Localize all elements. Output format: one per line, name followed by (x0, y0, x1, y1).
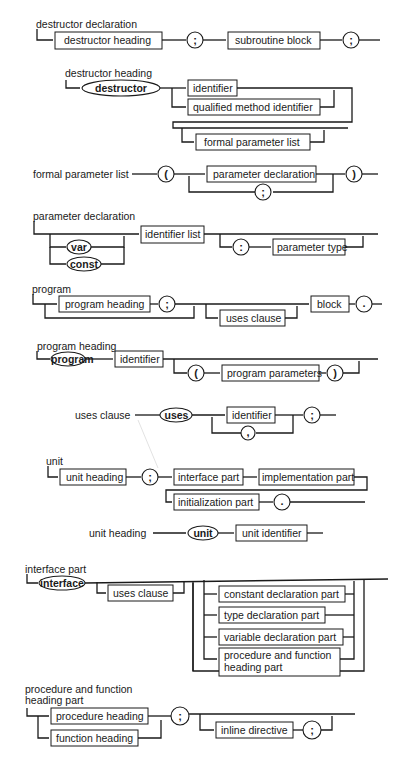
symbol-close-paren: ) (328, 367, 342, 379)
symbol-semicolon: ; (188, 34, 202, 46)
symbol-open-paren: ( (189, 367, 203, 379)
diagram-title-formal-parameter-list: formal parameter list (33, 168, 129, 180)
node-uses-clause: uses clause (113, 587, 168, 599)
symbol-semicolon: ; (305, 409, 319, 421)
diagram-title-program-heading: program heading (37, 340, 116, 352)
node-type-declaration-part: type declaration part (224, 609, 319, 621)
node-inline-directive: inline directive (221, 724, 288, 736)
diagram-title-parameter-declaration: parameter declaration (33, 210, 135, 222)
node-identifier: identifier (193, 82, 233, 94)
symbol-semicolon: ; (305, 724, 319, 736)
symbol-semicolon: ; (344, 34, 358, 46)
symbol-period: . (275, 495, 289, 507)
node-unit-identifier: unit identifier (242, 527, 302, 539)
node-formal-parameter-list: formal parameter list (204, 136, 300, 148)
symbol-colon: : (234, 241, 248, 253)
node-parameter-type: parameter type (277, 241, 348, 253)
node-identifier: identifier (232, 409, 272, 421)
symbol-semicolon: ; (160, 298, 174, 310)
keyword-unit: unit (188, 527, 218, 539)
node-function-heading: function heading (56, 732, 133, 744)
node-parameter-declaration: parameter declaration (213, 168, 315, 180)
node-interface-part: interface part (178, 471, 239, 483)
diagram-title-unit: unit (46, 455, 63, 467)
node-block: block (317, 298, 342, 310)
node-uses-clause: uses clause (226, 312, 281, 324)
keyword-uses: uses (161, 409, 192, 421)
node-constant-declaration-part: constant declaration part (224, 588, 339, 600)
keyword-destructor: destructor (82, 82, 160, 94)
diagram-title-procedure-function-heading-part-line2: heading part (25, 694, 83, 706)
node-implementation-part: implementation part (262, 471, 354, 483)
node-variable-declaration-part: variable declaration part (224, 631, 336, 643)
node-unit-heading: unit heading (66, 471, 123, 483)
symbol-semicolon: ; (173, 710, 187, 722)
keyword-interface: interface (39, 577, 85, 589)
symbol-close-paren: ) (347, 168, 361, 180)
node-identifier: identifier (120, 353, 160, 365)
node-identifier-list: identifier list (145, 228, 200, 240)
diagram-title-destructor-heading: destructor heading (65, 67, 152, 79)
diagram-title-uses-clause: uses clause (75, 409, 130, 421)
node-subroutine-block: subroutine block (235, 34, 311, 46)
keyword-program: program (51, 353, 85, 365)
node-procedure-and-function-heading-part-line1: procedure and function (224, 649, 331, 661)
node-procedure-and-function-heading-part-line2: heading part (224, 661, 282, 673)
symbol-period: . (357, 297, 371, 309)
symbol-open-paren: ( (159, 168, 173, 180)
keyword-var: var (67, 241, 91, 253)
diagram-title-unit-heading: unit heading (89, 527, 146, 539)
diagram-title-interface-part: interface part (25, 563, 86, 575)
diagram-title-program: program (32, 283, 71, 295)
diagram-title-destructor-declaration: destructor declaration (36, 18, 137, 30)
node-destructor-heading: destructor heading (64, 34, 151, 46)
node-program-parameters: program parameters (227, 367, 322, 379)
symbol-semicolon: ; (143, 471, 157, 483)
node-qualified-method-identifier: qualified method identifier (193, 101, 313, 113)
node-program-heading: program heading (65, 298, 144, 310)
node-initialization-part: initialization part (178, 496, 253, 508)
node-procedure-heading: procedure heading (56, 710, 144, 722)
symbol-comma: , (241, 426, 255, 438)
syntax-diagram-wires (0, 0, 410, 782)
keyword-const: const (67, 258, 101, 270)
symbol-semicolon: ; (256, 186, 270, 198)
